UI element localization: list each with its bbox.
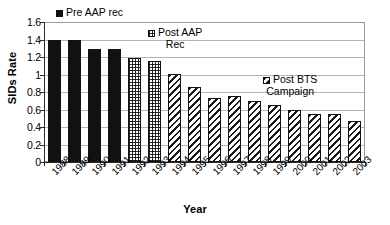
bar [348,121,361,162]
bar [208,98,221,162]
legend-swatch-diagonal-icon [263,77,270,84]
legend-label-post-bts: Post BTS [273,73,317,85]
y-tick-label: 0.4 [7,122,41,132]
bar [248,101,261,162]
legend-label-post-aap: Post AAP [158,26,202,38]
bar [128,58,141,162]
y-axis-title: SIDs Rate [6,36,18,120]
y-tick-label: 0.2 [7,140,41,150]
legend-label-pre-aap-rec: Pre AAP rec [66,6,123,18]
bar [228,96,241,162]
bar [288,110,301,163]
bar [88,49,101,162]
legend-item-pre-aap-rec: Pre AAP rec [56,6,123,18]
bar [148,61,161,162]
legend-item-post-aap-rec: Post AAP Rec [148,26,202,50]
x-axis-title: Year [0,203,390,215]
y-tick-label: 0 [7,157,41,167]
bar [48,40,61,162]
legend-swatch-checkered-icon [148,30,155,37]
bar [268,105,281,162]
legend-label-post-aap-line2: Rec [148,38,202,50]
x-tick-mark [44,162,45,166]
y-tick-label: 1.6 [7,17,41,27]
bar [168,74,181,162]
bar [188,87,201,162]
sids-rate-bar-chart: 1.61.41.210.80.60.40.20 SIDs Rate Year 1… [0,0,390,225]
y-axis-line [44,22,45,163]
bar [328,114,341,162]
legend-item-post-bts-campaign: Post BTS Campaign [263,73,317,97]
bar [68,40,81,162]
gridline [45,40,364,41]
legend-label-post-bts-line2: Campaign [263,85,317,97]
bar [108,49,121,162]
bar [308,114,321,162]
legend-swatch-solid-icon [56,10,63,17]
